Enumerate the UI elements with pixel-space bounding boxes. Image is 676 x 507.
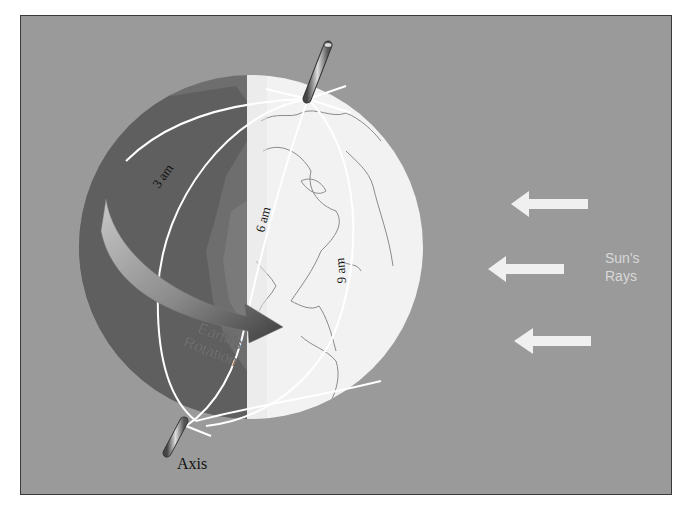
- sun-ray-arrow-icon: [511, 191, 588, 217]
- sun-rays: [488, 191, 591, 354]
- axis-label: Axis: [177, 455, 207, 472]
- night-side: [61, 61, 251, 441]
- sun-rays-label-line1: Sun's: [605, 250, 640, 266]
- earth-rotation-diagram: 3 am 6 am 9 am Earth's Rotation Sun's Ra…: [21, 16, 671, 494]
- diagram-frame: 3 am 6 am 9 am Earth's Rotation Sun's Ra…: [20, 15, 672, 495]
- sun-rays-label-line2: Rays: [605, 268, 637, 284]
- globe: [61, 43, 447, 454]
- sun-ray-arrow-icon: [488, 256, 564, 282]
- sun-ray-arrow-icon: [514, 328, 591, 354]
- day-side: [247, 61, 447, 441]
- time-label-9am: 9 am: [332, 257, 349, 284]
- axis-rod-bottom: [167, 421, 184, 453]
